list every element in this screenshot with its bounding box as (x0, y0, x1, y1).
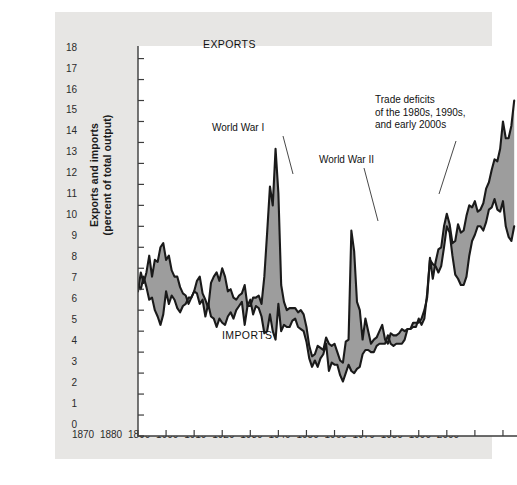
y-tick-0: 0 (53, 419, 77, 430)
series-label-imports: IMPORTS (222, 329, 272, 341)
series-label-exports: EXPORTS (203, 38, 256, 50)
y-tick-8: 8 (53, 251, 77, 262)
y-axis-title-line2: (percent of total output) (101, 115, 113, 236)
annotation-world-war-1: World War I (212, 122, 264, 135)
chart-panel: Exports and imports (percent of total ou… (55, 12, 492, 459)
y-tick-16: 16 (53, 83, 77, 94)
y-tick-12: 12 (53, 167, 77, 178)
plot-canvas: EXPORTS IMPORTS World War I World War II… (138, 46, 517, 436)
y-tick-10: 10 (53, 209, 77, 220)
y-tick-5: 5 (53, 314, 77, 325)
annotation-world-war-2: World War II (319, 154, 374, 167)
y-tick-13: 13 (53, 146, 77, 157)
page-left-bleed (0, 12, 26, 459)
y-tick-1: 1 (53, 398, 77, 409)
y-tick-6: 6 (53, 293, 77, 304)
y-tick-3: 3 (53, 356, 77, 367)
y-tick-9: 9 (53, 230, 77, 241)
y-tick-17: 17 (53, 62, 77, 73)
annotation-trade-deficits: Trade deficits of the 1980s, 1990s, and … (375, 94, 466, 132)
y-tick-2: 2 (53, 377, 77, 388)
y-axis-title-line1: Exports and imports (88, 123, 100, 227)
y-tick-18: 18 (53, 41, 77, 52)
y-axis-title: Exports and imports (percent of total ou… (88, 50, 114, 300)
y-tick-14: 14 (53, 125, 77, 136)
y-tick-11: 11 (53, 188, 77, 199)
y-tick-4: 4 (53, 335, 77, 346)
y-tick-7: 7 (53, 272, 77, 283)
y-tick-15: 15 (53, 104, 77, 115)
